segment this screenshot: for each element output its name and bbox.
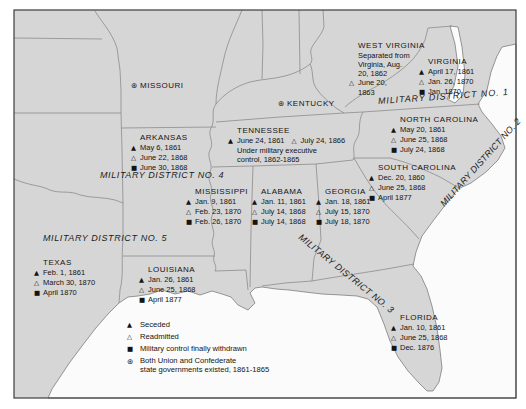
- map-legend: ▲Seceded△Readmitted■Military control fin…: [127, 320, 269, 377]
- legend-item-readmitted: △Readmitted: [127, 332, 269, 342]
- legend-item-seceded: ▲Seceded: [127, 320, 269, 330]
- withdrawn-legend-icon: ■: [127, 344, 140, 354]
- readmitted-legend-icon: △: [127, 332, 140, 342]
- legend-text: Both Union and Confederatestate governme…: [140, 356, 269, 374]
- legend-text: Readmitted: [140, 332, 179, 342]
- legend-item-withdrawn: ■Military control finally withdrawn: [127, 344, 269, 354]
- legend-text: Military control finally withdrawn: [140, 344, 247, 354]
- legend-item-both: ⊛Both Union and Confederatestate governm…: [127, 356, 269, 374]
- reconstruction-map: MILITARY DISTRICT NO. 1MILITARY DISTRICT…: [0, 0, 526, 409]
- legend-text: Seceded: [140, 320, 170, 330]
- both-legend-icon: ⊛: [127, 356, 140, 374]
- seceded-legend-icon: ▲: [127, 320, 140, 330]
